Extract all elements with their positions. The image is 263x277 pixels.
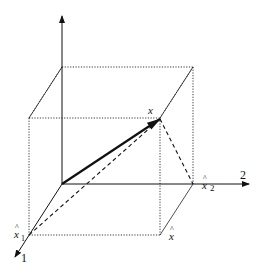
vector-projection-diagram: x ^ x 2 2 ^ x 1 ^ x 1: [0, 0, 263, 277]
label-hat-x: x: [168, 230, 174, 242]
label-hat-x2: x: [201, 179, 207, 191]
axis-1: [15, 184, 62, 257]
label-axis-2: 2: [240, 168, 246, 182]
projection-lines: [29, 119, 193, 235]
vector-x: [62, 119, 160, 184]
label-axis-1: 1: [21, 251, 27, 265]
label-hat-x1-sub: 1: [21, 234, 25, 243]
label-hat-x2-sub: 2: [210, 183, 215, 193]
label-x: x: [147, 104, 153, 116]
label-hat-x1: x: [13, 228, 19, 240]
